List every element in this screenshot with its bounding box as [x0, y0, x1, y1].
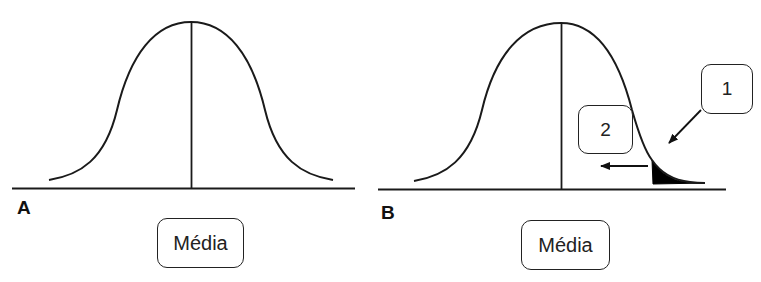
panel-b: B Média 1 2 — [370, 0, 761, 282]
panel-b-mean-box: Média — [521, 220, 610, 270]
callout-box-2: 2 — [578, 105, 633, 154]
panel-a-label: A — [17, 198, 31, 217]
callout-box-1: 1 — [701, 64, 753, 114]
panel-a-mean-box: Média — [157, 218, 244, 268]
panel-a: A Média — [0, 0, 370, 282]
panel-b-label: B — [381, 203, 395, 222]
